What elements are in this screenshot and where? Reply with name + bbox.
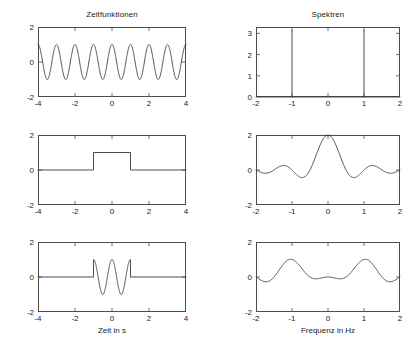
- y-tick-label: -2: [4, 93, 34, 102]
- x-tick-label: 0: [326, 207, 330, 216]
- x-tick-label: 2: [147, 99, 151, 108]
- x-tick-label: 4: [184, 207, 188, 216]
- y-tick-label: 3: [222, 29, 252, 38]
- x-tick-label: 4: [184, 99, 188, 108]
- x-tick-label: -2: [71, 314, 78, 323]
- x-axis-label: Zeit in s: [38, 326, 186, 335]
- x-axis-label: Frequenz in Hz: [256, 326, 400, 335]
- y-tick-label: -2: [4, 201, 34, 210]
- y-tick-label: 0: [222, 166, 252, 175]
- x-tick-label: -4: [34, 314, 41, 323]
- x-tick-label: 2: [398, 207, 402, 216]
- plot-panel-top-left: Zeitfunktionen-4-2024-202: [4, 8, 192, 124]
- y-tick-label: 0: [222, 93, 252, 102]
- axes-box: [39, 28, 186, 97]
- y-tick-label: 2: [222, 131, 252, 140]
- x-tick-label: -4: [34, 207, 41, 216]
- panel-title: Spektren: [256, 10, 400, 19]
- y-tick-label: 0: [4, 166, 34, 175]
- y-tick-label: -2: [222, 308, 252, 317]
- y-tick-label: 2: [222, 238, 252, 247]
- y-tick-label: 1: [222, 71, 252, 80]
- axes-box: [257, 136, 400, 205]
- x-tick-label: 1: [362, 207, 366, 216]
- y-tick-label: 2: [4, 131, 34, 140]
- y-tick-label: 2: [4, 238, 34, 247]
- y-tick-label: 2: [222, 50, 252, 59]
- y-tick-label: 0: [4, 273, 34, 282]
- x-tick-label: 4: [184, 314, 188, 323]
- plot-area: [255, 26, 401, 98]
- x-tick-label: -2: [252, 314, 259, 323]
- x-tick-label: 0: [326, 99, 330, 108]
- y-tick-label: 0: [4, 58, 34, 67]
- x-tick-label: 2: [398, 99, 402, 108]
- x-tick-label: 0: [110, 207, 114, 216]
- panel-title: Zeitfunktionen: [38, 10, 186, 19]
- y-tick-label: -2: [4, 308, 34, 317]
- x-tick-label: 0: [326, 314, 330, 323]
- x-tick-label: 1: [362, 314, 366, 323]
- y-tick-label: 0: [222, 273, 252, 282]
- data-curve: [256, 259, 400, 281]
- data-curve: [256, 135, 400, 178]
- x-tick-label: 2: [147, 207, 151, 216]
- data-curve: [38, 153, 186, 171]
- plot-panel-bottom-right: -2-1012-202Frequenz in Hz: [222, 223, 406, 339]
- plot-panel-bottom-left: -4-2024-202Zeit in s: [4, 223, 192, 339]
- y-tick-label: 2: [4, 23, 34, 32]
- data-curve: [38, 45, 186, 80]
- plot-area: [37, 134, 187, 206]
- x-tick-label: 2: [147, 314, 151, 323]
- x-tick-label: -1: [288, 99, 295, 108]
- data-curve: [38, 260, 186, 295]
- x-tick-label: -4: [34, 99, 41, 108]
- x-tick-label: 2: [398, 314, 402, 323]
- x-tick-label: -1: [288, 207, 295, 216]
- plot-area: [255, 134, 401, 206]
- plot-panel-top-right: Spektren-2-10120123: [222, 8, 406, 124]
- axes-box: [257, 28, 400, 97]
- x-tick-label: -2: [252, 99, 259, 108]
- x-tick-label: -2: [71, 99, 78, 108]
- y-tick-label: -2: [222, 201, 252, 210]
- x-tick-label: 1: [362, 99, 366, 108]
- plot-area: [37, 241, 187, 313]
- plot-area: [255, 241, 401, 313]
- x-tick-label: -1: [288, 314, 295, 323]
- plot-area: [37, 26, 187, 98]
- x-tick-label: -2: [71, 207, 78, 216]
- x-tick-label: 0: [110, 99, 114, 108]
- x-tick-label: -2: [252, 207, 259, 216]
- plot-panel-middle-right: -2-1012-202: [222, 116, 406, 232]
- plot-panel-middle-left: -4-2024-202: [4, 116, 192, 232]
- x-tick-label: 0: [110, 314, 114, 323]
